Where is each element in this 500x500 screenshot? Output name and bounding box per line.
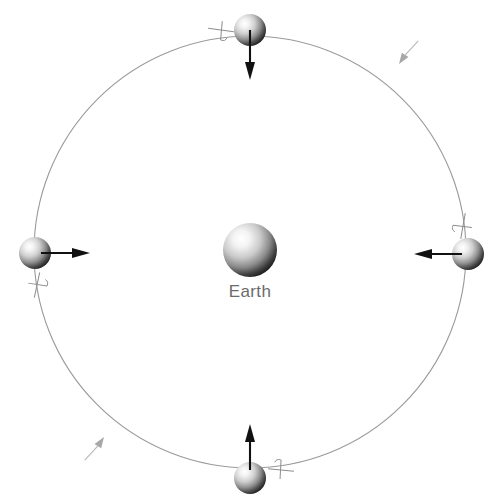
earth-label: Earth [0,282,500,302]
orbit-direction-arrow-upper-right [396,37,419,66]
orbital-diagram: Earth [0,0,500,500]
earth-sphere [223,223,277,277]
rotation-tick-top [207,19,235,42]
orbit-direction-arrow-lower-left [84,435,107,464]
orbit-layer [0,0,500,500]
rotation-tick-bottom [267,458,295,480]
